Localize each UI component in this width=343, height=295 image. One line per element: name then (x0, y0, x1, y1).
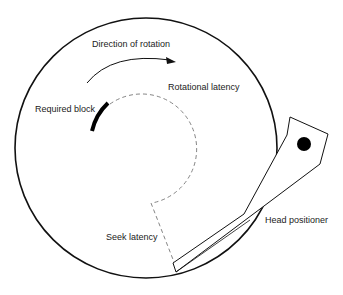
rotation-arrow (87, 58, 170, 83)
pivot-icon (297, 137, 311, 151)
head-positioner-label: Head positioner (265, 216, 328, 225)
rotational-latency-path (110, 94, 197, 203)
seek-latency-label: Seek latency (106, 233, 158, 242)
direction-label: Direction of rotation (92, 40, 170, 49)
arrow-head-icon (166, 57, 176, 64)
rotational-latency-label: Rotational latency (168, 83, 240, 92)
required-block-label: Required block (35, 105, 95, 114)
arm-line (176, 220, 250, 272)
disk-diagram (0, 0, 343, 295)
